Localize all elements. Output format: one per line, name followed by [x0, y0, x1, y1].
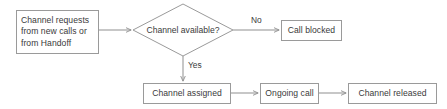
edge-label-no: No — [251, 15, 262, 25]
node-channel-assigned: Channel assigned — [143, 83, 231, 104]
node-channel-requests: Channel requests from new calls or from … — [16, 10, 99, 54]
node-call-blocked: Call blocked — [281, 20, 342, 41]
edge-label-yes: Yes — [188, 60, 202, 70]
flowchart-diagram: Channel requests from new calls or from … — [0, 0, 447, 109]
node-channel-available-label: Channel available? — [133, 25, 233, 35]
node-ongoing-call: Ongoing call — [260, 83, 319, 104]
node-channel-released: Channel released — [348, 83, 437, 104]
